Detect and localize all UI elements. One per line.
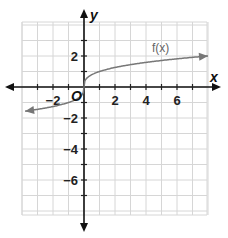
x-tick-label: 2 xyxy=(111,93,118,108)
x-tick-label: 4 xyxy=(142,93,150,108)
x-axis-label: x xyxy=(209,69,219,85)
function-label: f(x) xyxy=(152,41,169,55)
x-tick-label: 6 xyxy=(173,93,180,108)
y-tick-label: −4 xyxy=(63,142,79,157)
y-axis-label: y xyxy=(89,7,99,23)
y-tick-label: −6 xyxy=(63,173,78,188)
origin-label: O xyxy=(71,88,82,104)
y-tick-label: 2 xyxy=(71,49,78,64)
coordinate-plane: −22462−2−4−6 f(x) x y O xyxy=(0,0,228,238)
grid-lines xyxy=(22,22,208,215)
y-tick-label: −2 xyxy=(63,111,78,126)
